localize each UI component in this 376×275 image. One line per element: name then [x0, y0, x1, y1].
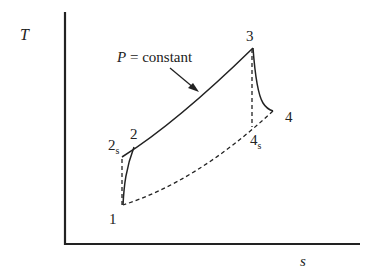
point-label-4: 4: [285, 109, 293, 125]
pressure-text: = constant: [126, 49, 193, 65]
point-label-2s-sub: s: [116, 145, 120, 156]
point-label-1: 1: [109, 211, 117, 227]
point-label-4s-sub: s: [258, 140, 262, 151]
point-label-2: 2: [130, 126, 138, 142]
process-4-1: [123, 111, 273, 205]
ts-diagram: T s P = constant 1 2s 2 3 4s 4: [0, 0, 376, 275]
point-label-4s: 4s: [250, 132, 262, 151]
x-axis-label: s: [300, 253, 306, 269]
point-label-2s-main: 2: [108, 137, 116, 153]
pressure-annotation: P = constant: [116, 49, 193, 65]
point-label-3: 3: [246, 28, 254, 44]
annotation-arrow-line: [170, 68, 194, 88]
pressure-var: P: [116, 49, 126, 65]
y-axis-label: T: [20, 26, 30, 43]
process-3-4: [253, 48, 273, 111]
point-label-2s: 2s: [108, 137, 120, 156]
